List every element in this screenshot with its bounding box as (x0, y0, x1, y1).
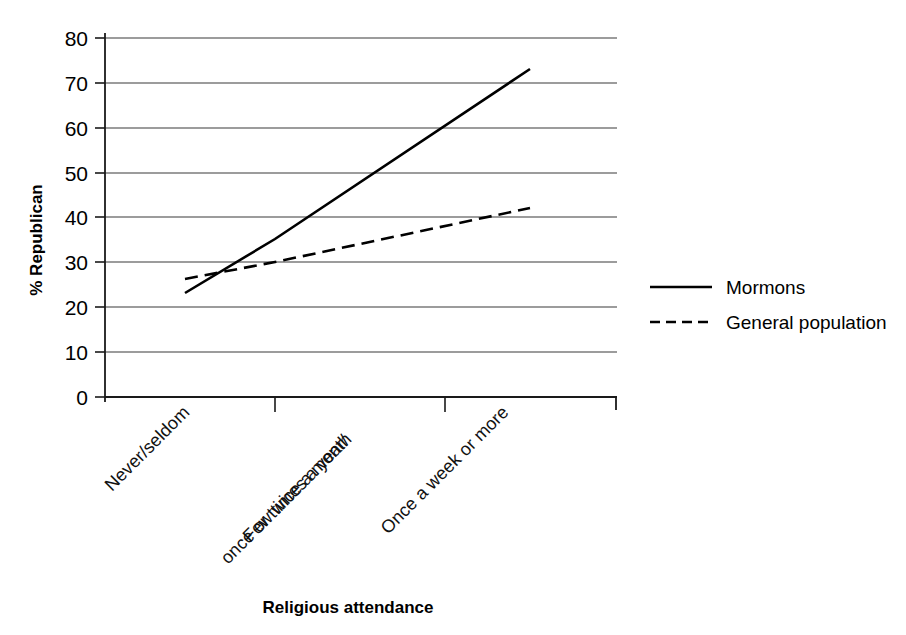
x-category-label-1-line2: once or twice a month (217, 429, 356, 568)
x-category-label-2: Once a week or more (377, 402, 513, 538)
chart-container: 80 70 60 50 40 30 20 10 0 % Republican N… (0, 0, 906, 635)
y-tick-label-40: 40 (65, 206, 88, 229)
y-tick-label-80: 80 (65, 27, 88, 50)
x-tick-marks (275, 397, 445, 412)
y-axis-title: % Republican (27, 184, 46, 295)
x-category-label-0: Never/seldom (101, 402, 194, 495)
y-tick-label-30: 30 (65, 251, 88, 274)
grid-lines (105, 38, 617, 352)
legend: Mormons General population (650, 277, 887, 333)
line-chart: 80 70 60 50 40 30 20 10 0 % Republican N… (0, 0, 906, 635)
legend-label-general-population: General population (726, 312, 887, 333)
y-tick-labels: 80 70 60 50 40 30 20 10 0 (65, 27, 88, 409)
y-tick-label-0: 0 (76, 386, 88, 409)
y-tick-label-10: 10 (65, 341, 88, 364)
x-category-labels: Never/seldom Few times a year/ once or t… (101, 402, 513, 568)
y-tick-label-60: 60 (65, 117, 88, 140)
series-line-mormons (185, 69, 530, 293)
y-tick-label-20: 20 (65, 296, 88, 319)
series-line-general-population (185, 208, 530, 279)
y-tick-marks (95, 38, 105, 397)
y-tick-label-70: 70 (65, 72, 88, 95)
legend-label-mormons: Mormons (726, 277, 805, 298)
x-axis-title: Religious attendance (263, 598, 434, 617)
y-tick-label-50: 50 (65, 162, 88, 185)
